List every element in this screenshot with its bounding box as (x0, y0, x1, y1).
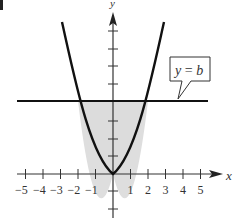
svg-text:4: 4 (180, 183, 186, 197)
graph-canvas: y = b x y −5 −4 −3 −2 −1 1 2 3 4 5 (0, 0, 251, 221)
svg-text:−1: −1 (85, 183, 98, 197)
figure: y = b x y −5 −4 −3 −2 −1 1 2 3 4 5 (0, 0, 251, 221)
svg-text:−2: −2 (68, 183, 81, 197)
svg-text:−5: −5 (15, 183, 28, 197)
svg-text:1: 1 (128, 183, 134, 197)
svg-text:−3: −3 (50, 183, 63, 197)
callout-label: y = b (173, 63, 203, 78)
svg-text:3: 3 (163, 183, 169, 197)
svg-text:2: 2 (145, 183, 151, 197)
svg-text:5: 5 (198, 183, 204, 197)
svg-text:−4: −4 (33, 183, 46, 197)
x-axis-label: x (225, 168, 232, 183)
panel-label-fragment (0, 0, 3, 10)
y-axis-label: y (109, 0, 115, 9)
